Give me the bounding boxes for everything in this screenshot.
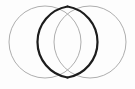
venn-diagram <box>0 0 135 89</box>
diagram-canvas <box>0 0 135 89</box>
